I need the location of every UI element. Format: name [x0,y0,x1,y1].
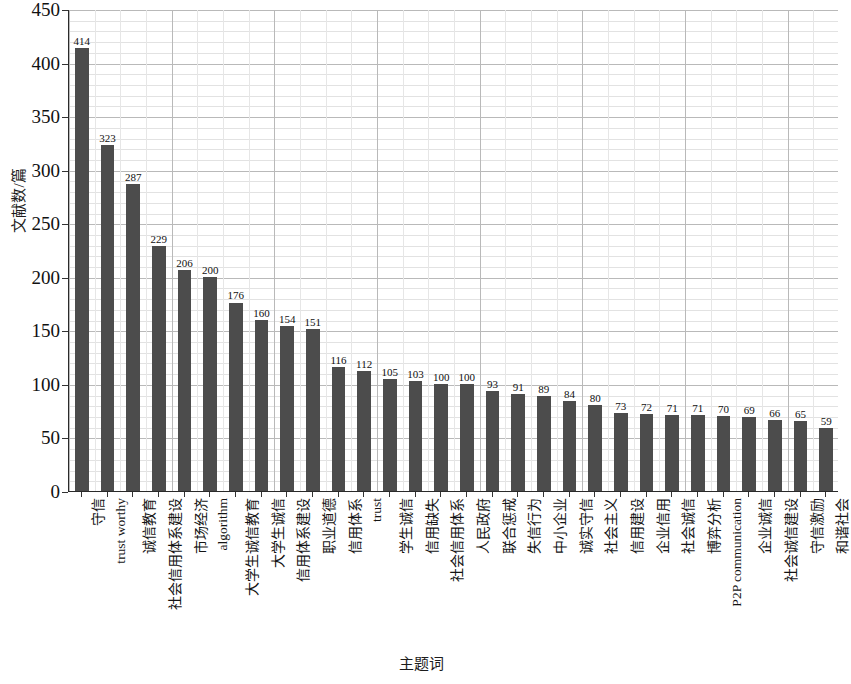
bar-value-label: 91 [513,381,524,393]
bar-value-label: 103 [407,368,424,380]
x-tick-mark [594,492,595,497]
bar [460,384,473,491]
x-tick-label: 社会诚信 [677,498,697,554]
bar [178,270,191,491]
x-tick-label: 社会信用体系 [446,498,466,582]
bar-value-label: 66 [769,407,780,419]
bar [203,277,216,491]
bar-value-label: 323 [99,132,116,144]
x-tick-label: P2P communication [729,498,745,607]
x-tick-mark [492,492,493,497]
x-tick-label: algorithm [215,498,231,551]
y-tick-label: 100 [2,374,60,396]
bar-value-label: 71 [667,402,678,414]
x-tick-mark [415,492,416,497]
x-axis-tick-labels: 守信trust worthy诚信教育社会信用体系建设市场经济algorithm大… [68,498,838,648]
x-tick-mark [132,492,133,497]
x-tick-mark [569,492,570,497]
bar [152,246,165,491]
bar-value-label: 414 [74,35,91,47]
bar-value-label: 71 [692,402,703,414]
x-tick-mark [671,492,672,497]
x-tick-mark [363,492,364,497]
bar [717,416,730,491]
bar-value-label: 229 [151,233,168,245]
x-tick-label: 信用体系 [344,498,364,554]
x-tick-mark [517,492,518,497]
x-tick-label: 守信 [87,498,107,526]
y-tick-label: 150 [2,320,60,342]
bar-value-label: 100 [459,371,476,383]
x-tick-mark [81,492,82,497]
x-tick-mark [107,492,108,497]
bar [357,371,370,491]
x-tick-label: 和谐社会 [831,498,851,554]
bar-value-label: 100 [433,371,450,383]
x-tick-label: 信用体系建设 [292,498,312,582]
bar [229,303,242,492]
x-tick-mark [312,492,313,497]
x-tick-mark [723,492,724,497]
bar [537,396,550,491]
bar-value-label: 93 [487,378,498,390]
bar [75,48,88,491]
y-tick-label: 50 [2,427,60,449]
bar-value-label: 116 [330,354,346,366]
x-tick-mark [440,492,441,497]
bar-value-label: 59 [821,415,832,427]
bar [742,417,755,491]
bar-value-label: 200 [202,264,219,276]
bar-value-label: 73 [615,400,626,412]
bar-value-label: 105 [382,366,399,378]
bar [691,415,704,491]
bar-value-label: 70 [718,403,729,415]
x-tick-label: 企业信用 [652,498,672,554]
x-tick-label: trust worthy [113,498,129,564]
bar [434,384,447,491]
bar [332,367,345,491]
x-tick-label: 企业诚信 [754,498,774,554]
x-tick-mark [389,492,390,497]
bar-value-label: 69 [744,404,755,416]
bar [255,320,268,491]
bar [768,420,781,491]
x-tick-mark [800,492,801,497]
bar-value-label: 160 [253,307,270,319]
y-tick-label: 0 [2,481,60,503]
bar [794,421,807,491]
x-tick-label: 社会信用体系建设 [164,498,184,610]
bar-value-label: 112 [356,358,372,370]
bar-value-label: 72 [641,401,652,413]
x-tick-mark [235,492,236,497]
bar [101,145,114,491]
y-tick-label: 450 [2,0,60,21]
bar-value-label: 89 [538,383,549,395]
y-axis-tick-labels: 050100150200250300350400450 [0,0,60,684]
x-tick-mark [261,492,262,497]
x-tick-label: 中小企业 [549,498,569,554]
y-tick-label: 300 [2,160,60,182]
bar-value-label: 80 [590,392,601,404]
bar-value-label: 65 [795,408,806,420]
x-tick-mark [184,492,185,497]
x-tick-label: 学生诚信 [395,498,415,554]
x-tick-mark [158,492,159,497]
x-tick-label: 市场经济 [190,498,210,554]
x-tick-mark [825,492,826,497]
x-tick-mark [286,492,287,497]
bar [409,381,422,491]
bar [306,329,319,491]
bar-value-label: 84 [564,388,575,400]
bar [383,379,396,491]
bar [511,394,524,491]
bar [126,184,139,491]
x-tick-label: trust [369,498,385,522]
bars-container: 4143232872292062001761601541511161121051… [69,10,838,491]
x-tick-mark [774,492,775,497]
bar [665,415,678,491]
x-tick-label: 社会主义 [600,498,620,554]
x-tick-mark [209,492,210,497]
x-tick-mark [748,492,749,497]
x-tick-label: 社会诚信建设 [780,498,800,582]
x-tick-mark [620,492,621,497]
